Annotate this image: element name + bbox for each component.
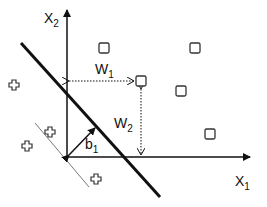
- x-axis-label: X1: [235, 173, 250, 192]
- y-axis-label: X2: [44, 10, 59, 29]
- square-point: [176, 86, 186, 96]
- cross-point: [91, 174, 101, 184]
- square-point: [190, 43, 200, 53]
- b1-label: b1: [85, 136, 99, 155]
- w2-label: W2: [114, 115, 133, 134]
- cross-point: [22, 141, 32, 151]
- square-point: [136, 76, 146, 86]
- square-point: [205, 129, 215, 139]
- square-point: [99, 43, 109, 53]
- decision-boundary-line: [21, 43, 160, 197]
- w1-label: W1: [95, 61, 114, 80]
- cross-point: [9, 80, 19, 90]
- linear-classifier-diagram: X2 X1 W1 W2 b1: [0, 0, 267, 207]
- cross-class-points: [9, 80, 101, 184]
- parallel-line-through-origin: [35, 123, 89, 187]
- cross-point: [45, 127, 55, 137]
